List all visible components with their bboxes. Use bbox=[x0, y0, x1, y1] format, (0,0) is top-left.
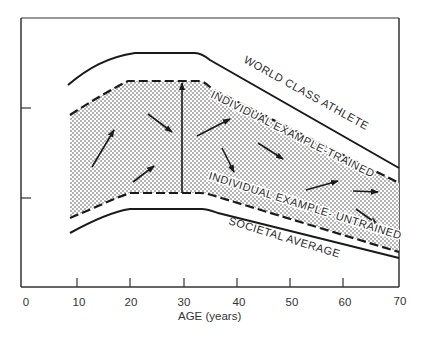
x-axis-title: AGE (years) bbox=[178, 310, 241, 322]
x-tick-60: 60 bbox=[339, 296, 352, 308]
age-performance-chart: 0 10 20 30 40 50 60 70 AGE (years) WORLD… bbox=[0, 0, 427, 338]
arrow-right-far bbox=[353, 191, 378, 192]
x-tick-30: 30 bbox=[178, 296, 191, 308]
x-tick-0: 0 bbox=[23, 296, 29, 308]
x-tick-50: 50 bbox=[286, 296, 299, 308]
x-axis-tick-labels: 0 10 20 30 40 50 60 70 bbox=[23, 295, 407, 308]
x-tick-20: 20 bbox=[125, 296, 138, 308]
x-axis-ticks bbox=[77, 278, 343, 287]
x-tick-40: 40 bbox=[233, 296, 246, 308]
x-tick-70: 70 bbox=[394, 295, 407, 307]
x-tick-10: 10 bbox=[73, 296, 86, 308]
y-axis-ticks bbox=[21, 108, 31, 198]
